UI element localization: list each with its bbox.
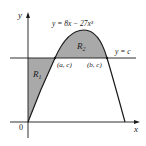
point-a-label: (a, c) [57,61,72,69]
point-a-dot [54,57,56,59]
curve-label: y = 8x − 27x³ [51,19,94,28]
origin-label: 0 [19,123,23,132]
y-axis-arrow-icon [26,12,30,18]
point-b-dot [106,57,108,59]
y-axis-label: y [17,10,22,20]
line-label: y = c [114,47,131,56]
x-axis-label: x [133,124,138,134]
point-b-label: (b, c) [87,61,102,69]
area-diagram: y x 0 y = 8x − 27x³ y = c (a, c) (b, c) … [0,0,146,146]
